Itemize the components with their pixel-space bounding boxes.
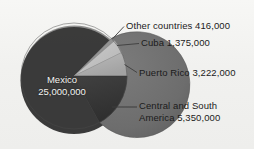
pie-chart-figure: Other countries 416,000 Cuba 1,375,000 P… xyxy=(0,0,254,149)
slice-label-puerto-rico: Puerto Rico 3,222,000 xyxy=(139,67,236,79)
slice-label-central-south-america: Central and South America 5,350,000 xyxy=(139,100,221,123)
slice-label-central-south-america-line1: Central and South xyxy=(139,100,217,111)
slice-label-mexico-value: 25,000,000 xyxy=(25,86,99,98)
slice-label-cuba: Cuba 1,375,000 xyxy=(141,37,210,49)
slice-label-mexico: Mexico 25,000,000 xyxy=(25,74,99,98)
slice-label-other-countries: Other countries 416,000 xyxy=(126,20,230,32)
slice-label-central-south-america-line2: America 5,350,000 xyxy=(139,112,221,124)
slice-label-mexico-name: Mexico xyxy=(25,74,99,86)
